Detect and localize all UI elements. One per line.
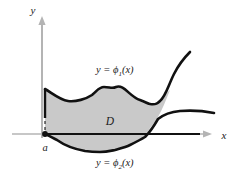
x-axis-label: x	[221, 129, 227, 141]
left-endpoint-label: a	[42, 142, 47, 153]
y-axis-arrowhead	[38, 16, 45, 25]
lower-curve-label: y = ϕ2(x)	[95, 157, 134, 171]
point-a-marker	[42, 131, 48, 137]
y-axis-label: y	[30, 4, 36, 16]
region-label: D	[105, 115, 115, 127]
x-axis-arrowhead	[203, 131, 212, 138]
upper-curve-label: y = ϕ1(x)	[95, 64, 134, 78]
region-d-figure: y x y = ϕ1(x) y = ϕ2(x) D a	[0, 0, 241, 178]
